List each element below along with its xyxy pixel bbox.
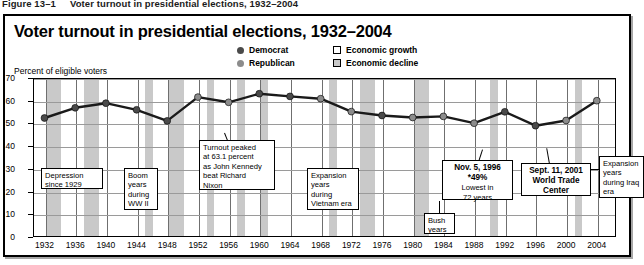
annotation-sept-11-2001: Sept. 11, 2001 World Trade Center bbox=[521, 163, 591, 196]
republican-marker-icon bbox=[237, 60, 244, 67]
x-axis-tick-label: 1940 bbox=[89, 240, 123, 250]
data-point-marker bbox=[471, 120, 478, 127]
x-axis-tick-label: 1948 bbox=[150, 240, 184, 250]
figure-caption: Figure 13–1Voter turnout in presidential… bbox=[2, 0, 298, 9]
chart-legend: Democrat Republican Economic growth Econ… bbox=[237, 45, 487, 71]
x-axis-tick-label: 1960 bbox=[242, 240, 276, 250]
annotation-line: since 1929 bbox=[45, 180, 99, 189]
data-point-marker bbox=[348, 108, 355, 115]
chart-panel: Voter turnout in presidential elections,… bbox=[3, 14, 631, 257]
data-point-marker bbox=[379, 112, 386, 119]
x-axis-tick-label: 1968 bbox=[304, 240, 338, 250]
y-axis-tick-label: 20 bbox=[0, 187, 15, 197]
x-axis-tick-label: 1976 bbox=[365, 240, 399, 250]
x-axis-tick-label: 1980 bbox=[396, 240, 430, 250]
annotation-line: Turnout peaked bbox=[203, 143, 271, 152]
data-point-marker bbox=[164, 118, 171, 125]
data-point-marker bbox=[256, 90, 263, 97]
x-axis-tick-label: 1956 bbox=[212, 240, 246, 250]
y-axis-tick-label: 10 bbox=[0, 209, 15, 219]
x-axis-tick-label: 1932 bbox=[28, 240, 62, 250]
x-axis-tick-label: 1964 bbox=[273, 240, 307, 250]
annotation-line: years bbox=[603, 168, 640, 177]
annotation-line: Depression bbox=[45, 171, 99, 180]
annotation-line: era bbox=[603, 187, 640, 196]
annotation-line: years bbox=[311, 180, 355, 189]
y-axis-title: Percent of eligible voters bbox=[14, 66, 107, 76]
legend-item-economic-growth: Economic growth bbox=[333, 45, 417, 55]
x-axis-tick-label: 1944 bbox=[120, 240, 154, 250]
annotation-vietnam: Expansion years during Vietnam era bbox=[307, 168, 359, 210]
y-axis-tick-label: 50 bbox=[0, 118, 15, 128]
annotation-line: Expansion bbox=[603, 159, 640, 168]
x-axis-tick-label: 2000 bbox=[549, 240, 583, 250]
annotation-line: during bbox=[128, 190, 154, 199]
annotation-nov-1996: Nov. 5, 1996 *49% Lowest in 72 years bbox=[442, 160, 513, 200]
annotation-line: Nixon bbox=[203, 181, 271, 190]
y-axis-tick-label: 70 bbox=[0, 73, 15, 83]
annotation-line: Bush bbox=[428, 216, 451, 225]
legend-label-economic-growth: Economic growth bbox=[346, 45, 417, 55]
figure-number: Figure 13–1 bbox=[2, 0, 56, 9]
economic-growth-swatch-icon bbox=[333, 46, 341, 54]
x-axis-tick-label: 1952 bbox=[181, 240, 215, 250]
data-point-marker bbox=[501, 108, 508, 115]
economic-decline-swatch-icon bbox=[333, 59, 341, 67]
legend-item-democrat: Democrat bbox=[237, 45, 288, 55]
data-point-marker bbox=[317, 95, 324, 102]
data-point-marker bbox=[287, 93, 294, 100]
legend-label-democrat: Democrat bbox=[249, 45, 288, 55]
annotation-line: Vietnam era bbox=[311, 199, 355, 208]
y-axis-tick-mark bbox=[28, 237, 33, 238]
annotation-boom-ww2: Boom years during WW II bbox=[124, 168, 158, 210]
annotation-line: during Iraq bbox=[603, 178, 640, 187]
annotation-line: World Trade bbox=[525, 176, 587, 186]
democrat-marker-icon bbox=[237, 47, 244, 54]
x-axis-tick-label: 1936 bbox=[58, 240, 92, 250]
legend-label-republican: Republican bbox=[249, 58, 295, 68]
annotation-line: during bbox=[311, 190, 355, 199]
data-point-marker bbox=[41, 115, 48, 122]
data-point-marker bbox=[103, 100, 110, 107]
x-axis-tick-label: 1984 bbox=[426, 240, 460, 250]
annotation-line: years bbox=[428, 225, 451, 234]
x-axis-tick-label: 1972 bbox=[334, 240, 368, 250]
y-axis-tick-label: 30 bbox=[0, 164, 15, 174]
data-point-marker bbox=[440, 113, 447, 120]
legend-item-economic-decline: Economic decline bbox=[333, 58, 418, 68]
annotation-iraq: Expansion years during Iraq era bbox=[599, 156, 644, 198]
data-point-marker bbox=[133, 106, 140, 113]
figure-caption-text: Voter turnout in presidential elections,… bbox=[70, 0, 298, 9]
y-axis-tick-label: 60 bbox=[0, 96, 15, 106]
annotation-line: at 63.1 percent bbox=[203, 152, 271, 161]
annotation-bush-years: Bush years bbox=[424, 213, 455, 234]
y-axis-tick-label: 0 bbox=[0, 232, 15, 242]
annotation-line: as John Kennedy bbox=[203, 162, 271, 171]
data-point-marker bbox=[532, 122, 539, 129]
annotation-line: Expansion bbox=[311, 171, 355, 180]
turnout-line-chart bbox=[33, 78, 616, 237]
annotation-line: Center bbox=[525, 186, 587, 196]
annotation-line: 72 years bbox=[446, 193, 509, 203]
data-point-marker bbox=[72, 104, 79, 111]
x-axis-tick-label: 1992 bbox=[488, 240, 522, 250]
x-axis-tick-label: 1988 bbox=[457, 240, 491, 250]
data-point-marker bbox=[225, 99, 232, 106]
x-axis-tick-label: 1996 bbox=[518, 240, 552, 250]
annotation-line: *49% bbox=[446, 173, 509, 183]
annotation-line: Sept. 11, 2001 bbox=[525, 166, 587, 176]
annotation-line: Nov. 5, 1996 bbox=[446, 163, 509, 173]
x-axis-tick-label: 2004 bbox=[580, 240, 614, 250]
chart-title: Voter turnout in presidential elections,… bbox=[14, 22, 392, 41]
data-point-marker bbox=[593, 97, 600, 104]
legend-item-republican: Republican bbox=[237, 58, 295, 68]
annotation-line: beat Richard bbox=[203, 171, 271, 180]
data-series-layer bbox=[33, 78, 616, 237]
annotation-line: Boom bbox=[128, 171, 154, 180]
annotation-depression: Depression since 1929 bbox=[41, 168, 103, 189]
annotation-peak-1960: Turnout peaked at 63.1 percent as John K… bbox=[199, 140, 275, 190]
legend-label-economic-decline: Economic decline bbox=[346, 58, 418, 68]
annotation-line: years bbox=[128, 180, 154, 189]
data-point-marker bbox=[409, 114, 416, 121]
